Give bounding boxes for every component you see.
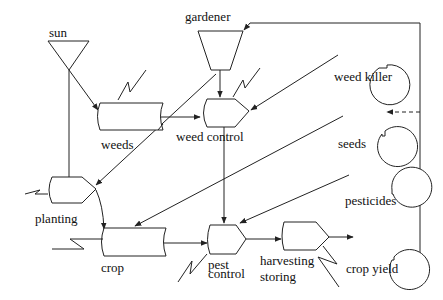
- label-weeds: weeds: [101, 138, 134, 151]
- heat-sink-icon: [25, 190, 48, 194]
- label-harvesting: harvesting: [260, 254, 314, 267]
- weed-control-process-icon: [204, 99, 250, 127]
- label-seeds: seeds: [338, 137, 366, 150]
- edge-sun-weeds: [69, 70, 98, 110]
- heat-sink-icon: [178, 254, 207, 282]
- heat-sink-icon: [233, 68, 260, 97]
- crop-storage-icon: [102, 228, 167, 256]
- diagram-svg: [0, 0, 443, 300]
- label-weed-control: weed control: [176, 130, 244, 143]
- label-sun: sun: [49, 26, 67, 39]
- weeds-storage-icon: [98, 103, 164, 130]
- sun-source-icon: [48, 41, 89, 70]
- label-planting: planting: [35, 212, 78, 225]
- heat-sink-icon: [52, 239, 103, 249]
- label-crop-yield: crop yield: [346, 262, 398, 275]
- pest-control-process-icon: [208, 225, 247, 254]
- pesticides-input-icon: [392, 167, 432, 207]
- label-control: control: [208, 267, 245, 280]
- label-crop: crop: [101, 261, 124, 274]
- edge-pesticides-pestcontrol: [240, 175, 349, 223]
- label-storing: storing: [260, 270, 296, 283]
- energy-flow-diagram: sun gardener weeds weed control weed kil…: [0, 0, 443, 300]
- seeds-input-icon: [378, 127, 418, 167]
- gardener-source-icon: [198, 31, 243, 70]
- edge-planting-crop: [96, 190, 104, 229]
- planting-process-icon: [49, 177, 96, 203]
- label-pesticides: pesticides: [345, 194, 396, 207]
- heat-sink-icon: [118, 70, 146, 100]
- edge-weedkiller-weedcontrol: [251, 55, 338, 110]
- heat-sink-icon: [318, 246, 339, 287]
- harvesting-process-icon: [282, 222, 329, 250]
- label-weed-killer: weed killer: [334, 70, 392, 83]
- label-gardener: gardener: [185, 10, 230, 23]
